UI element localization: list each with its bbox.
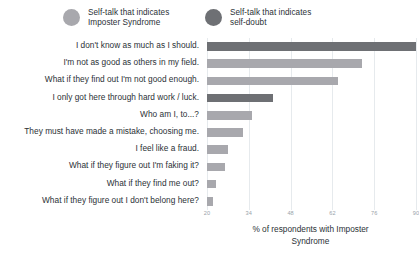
category-label: What if they figure out I don't belong h… <box>42 195 199 206</box>
legend-swatch-self-doubt-icon <box>205 9 222 26</box>
bar-row <box>207 124 416 141</box>
x-tick-label: 62 <box>329 210 335 216</box>
bar-row <box>207 38 416 55</box>
category-label: I only got here through hard work / luck… <box>52 92 199 103</box>
bar-imposter <box>207 180 216 189</box>
x-axis-title: % of respondents with ImposterSyndrome <box>207 224 414 247</box>
bar-row <box>207 72 416 89</box>
bar-series <box>207 38 416 210</box>
x-tick-label: 76 <box>371 210 377 216</box>
bar-row <box>207 90 416 107</box>
category-row: What if they figure out I'm faking it? <box>0 158 203 175</box>
bar-imposter <box>207 59 362 68</box>
bar-row <box>207 176 416 193</box>
bar-row <box>207 193 416 210</box>
category-row: What if they find out I'm not good enoug… <box>0 72 203 89</box>
x-axis-title-line: % of respondents with Imposter <box>207 224 414 236</box>
bar-row <box>207 55 416 72</box>
legend-item-self-doubt: Self-talk that indicates self-doubt <box>205 8 311 27</box>
category-row: I only got here through hard work / luck… <box>0 90 203 107</box>
bar-row <box>207 141 416 158</box>
bar-row <box>207 107 416 124</box>
category-label: Who am I, to...? <box>140 109 199 120</box>
category-label: I feel like a fraud. <box>135 143 199 154</box>
category-label: What if they find out I'm not good enoug… <box>45 74 199 85</box>
bar-row <box>207 158 416 175</box>
category-row: I don't know as much as I should. <box>0 38 203 55</box>
chart-legend: Self-talk that indicates Imposter Syndro… <box>0 6 416 38</box>
legend-item-imposter-syndrome: Self-talk that indicates Imposter Syndro… <box>63 8 169 27</box>
x-tick-label: 20 <box>204 210 210 216</box>
bar-imposter <box>207 77 338 86</box>
x-tick-label: 48 <box>287 210 293 216</box>
category-label: They must have made a mistake, choosing … <box>24 126 199 137</box>
category-row: What if they figure out I don't belong h… <box>0 193 203 210</box>
category-row: They must have made a mistake, choosing … <box>0 124 203 141</box>
bar-imposter <box>207 163 225 172</box>
category-label: What if they figure out I'm faking it? <box>69 160 199 171</box>
category-label: What if they find me out? <box>107 178 199 189</box>
gridline <box>416 38 417 210</box>
legend-label-imposter-syndrome: Self-talk that indicates Imposter Syndro… <box>88 8 169 27</box>
legend-label-self-doubt: Self-talk that indicates self-doubt <box>230 8 311 27</box>
x-tick-label: 34 <box>246 210 252 216</box>
category-labels: I don't know as much as I should.I'm not… <box>0 38 203 210</box>
category-label: I'm not as good as others in my field. <box>63 57 199 68</box>
bar-selfdoubt <box>207 42 416 51</box>
category-row: Who am I, to...? <box>0 107 203 124</box>
category-row: I'm not as good as others in my field. <box>0 55 203 72</box>
bar-imposter <box>207 128 243 137</box>
x-tick-label: 90 <box>413 210 419 216</box>
bar-imposter <box>207 197 213 206</box>
legend-swatch-imposter-icon <box>63 9 80 26</box>
category-row: What if they find me out? <box>0 176 203 193</box>
category-row: I feel like a fraud. <box>0 141 203 158</box>
plot-area: I don't know as much as I should.I'm not… <box>0 38 416 210</box>
x-axis-title-line: Syndrome <box>207 236 414 248</box>
category-label: I don't know as much as I should. <box>76 40 199 51</box>
bar-imposter <box>207 111 252 120</box>
x-axis-ticks: 203448627690 <box>207 210 416 222</box>
bar-imposter <box>207 145 228 154</box>
bar-selfdoubt <box>207 94 273 103</box>
